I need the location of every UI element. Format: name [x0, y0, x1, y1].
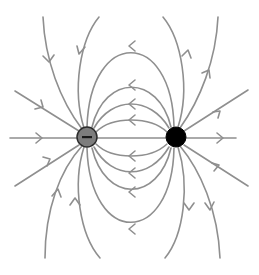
arrow-icon [52, 189, 61, 197]
arrow-icon [129, 224, 135, 234]
field-line [87, 148, 174, 222]
arrow-icon [129, 80, 135, 90]
field-line [94, 104, 169, 128]
field-lines-svg [0, 0, 259, 275]
field-line [184, 90, 248, 131]
field-line [165, 147, 184, 258]
positive-charge [166, 127, 186, 147]
arrow-icon [129, 168, 135, 178]
upper-inner-arches [87, 41, 174, 132]
axis-lines [10, 133, 236, 143]
lower-inner-arches [87, 144, 174, 234]
minus-sign-icon [82, 136, 92, 138]
arrow-icon [213, 111, 220, 118]
positive-charge-circle [166, 127, 186, 147]
dipole-field-diagram [0, 0, 259, 275]
arrow-icon [184, 203, 194, 210]
field-line [92, 87, 171, 127]
arrow-icon [182, 50, 191, 58]
field-line [87, 53, 174, 127]
arrow-icon [129, 41, 135, 51]
negative-charge [77, 127, 97, 147]
field-line [180, 17, 218, 128]
